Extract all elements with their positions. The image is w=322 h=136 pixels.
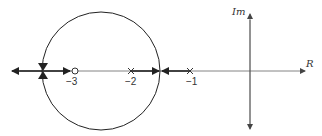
pole-label: −2 [125,76,136,87]
pole-label: −1 [186,76,197,87]
zero-label: −3 [66,76,77,87]
root-locus-plot [0,0,322,136]
real-axis-label: R [306,58,314,69]
zero-marker [72,68,78,74]
imag-axis-label: Im [232,6,245,17]
breakin-arrow-top [38,63,48,71]
breakin-arrow-bottom [38,71,48,79]
